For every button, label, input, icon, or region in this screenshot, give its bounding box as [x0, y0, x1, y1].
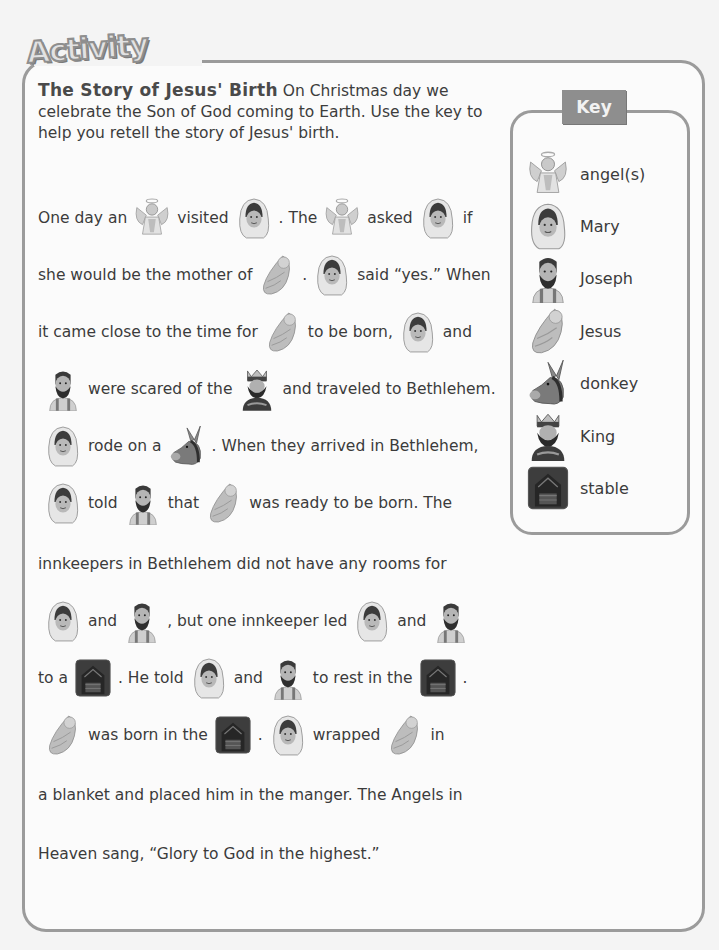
- angel-icon: [133, 196, 171, 240]
- story-text: .: [258, 726, 263, 744]
- key-item-jesus: Jesus: [520, 305, 690, 357]
- jesus-icon: [205, 481, 243, 525]
- key-item-label: angel(s): [580, 165, 645, 184]
- story-line: were scared of theand traveled to Bethle…: [38, 361, 496, 417]
- mary-icon: [44, 599, 82, 643]
- joseph-icon: [44, 367, 82, 411]
- story-text: and: [397, 612, 426, 630]
- key-label: Key: [562, 90, 626, 124]
- story-text: innkeepers in Bethlehem did not have any…: [38, 555, 447, 573]
- story-line: to a. He toldandto rest in the.: [38, 650, 467, 706]
- jesus-icon: [44, 713, 82, 757]
- story-text: . He told: [118, 669, 184, 687]
- key-item-donkey: donkey: [520, 357, 690, 409]
- angel-icon: [526, 149, 570, 199]
- mary-icon: [44, 424, 82, 468]
- key-item-label: Jesus: [580, 322, 621, 341]
- story-text: and: [88, 612, 117, 630]
- stable-icon: [526, 463, 570, 513]
- story-text: One day an: [38, 209, 127, 227]
- story-text: . The: [279, 209, 318, 227]
- story-text: in: [430, 726, 444, 744]
- activity-heading: The Story of Jesus' Birth: [38, 80, 278, 100]
- mary-icon: [399, 310, 437, 354]
- story-text: said “yes.” When: [357, 266, 490, 284]
- king-icon: [526, 411, 570, 461]
- stable-icon: [419, 656, 457, 700]
- joseph-icon: [526, 253, 570, 303]
- story-line: it came close to the time forto be born,…: [38, 304, 472, 360]
- joseph-icon: [123, 599, 161, 643]
- story-line: innkeepers in Bethlehem did not have any…: [38, 536, 447, 592]
- joseph-icon: [124, 481, 162, 525]
- story-text: and traveled to Bethlehem.: [282, 380, 495, 398]
- key-item-label: King: [580, 427, 615, 446]
- story-line: a blanket and placed him in the manger. …: [38, 767, 463, 823]
- story-line: was born in the.wrappedin: [38, 707, 445, 763]
- story-text: to be born,: [308, 323, 393, 341]
- joseph-icon: [432, 599, 470, 643]
- key-item-label: Mary: [580, 217, 620, 236]
- mary-icon: [526, 201, 570, 251]
- jesus-icon: [258, 253, 296, 297]
- jesus-icon: [526, 306, 570, 356]
- key-item-angels: angel(s): [520, 148, 690, 200]
- jesus-icon: [386, 713, 424, 757]
- key-item-label: stable: [580, 479, 629, 498]
- key-item-label: Joseph: [580, 269, 633, 288]
- story-text: to a: [38, 669, 68, 687]
- story-text: it came close to the time for: [38, 323, 258, 341]
- story-text: rode on a: [88, 437, 162, 455]
- story-line: she would be the mother of.said “yes.” W…: [38, 247, 491, 303]
- story-text: .: [302, 266, 307, 284]
- key-item-stable: stable: [520, 462, 690, 514]
- key-item-mary: Mary: [520, 200, 690, 252]
- story-text: that: [168, 494, 199, 512]
- king-icon: [238, 367, 276, 411]
- activity-page: Activity The Story of Jesus' Birth On Ch…: [0, 0, 719, 950]
- angel-icon: [323, 196, 361, 240]
- donkey-icon: [526, 358, 570, 408]
- story-line: and, but one innkeeper ledand: [38, 593, 476, 649]
- story-text: were scared of the: [88, 380, 232, 398]
- intro-paragraph: The Story of Jesus' Birth On Christmas d…: [38, 80, 498, 144]
- story-line: rode on a. When they arrived in Bethlehe…: [38, 418, 479, 474]
- story-text: asked: [367, 209, 412, 227]
- donkey-icon: [168, 424, 206, 468]
- story-text: .: [463, 669, 468, 687]
- story-text: and: [443, 323, 472, 341]
- key-item-king: King: [520, 410, 690, 462]
- story-text: and: [234, 669, 263, 687]
- story-text: was ready to be born. The: [249, 494, 452, 512]
- story-text: , but one innkeeper led: [167, 612, 347, 630]
- story-text: visited: [177, 209, 228, 227]
- story-text: she would be the mother of: [38, 266, 252, 284]
- story-text: Heaven sang, “Glory to God in the highes…: [38, 845, 380, 863]
- story-text: to rest in the: [313, 669, 413, 687]
- mary-icon: [313, 253, 351, 297]
- story-text: wrapped: [313, 726, 381, 744]
- mary-icon: [44, 481, 82, 525]
- story-line: toldthatwas ready to be born. The: [38, 475, 452, 531]
- key-item-label: donkey: [580, 374, 638, 393]
- story-text: a blanket and placed him in the manger. …: [38, 786, 463, 804]
- stable-icon: [74, 656, 112, 700]
- story-line: Heaven sang, “Glory to God in the highes…: [38, 826, 380, 882]
- story-text: told: [88, 494, 118, 512]
- stable-icon: [214, 713, 252, 757]
- mary-icon: [235, 196, 273, 240]
- mary-icon: [353, 599, 391, 643]
- key-item-joseph: Joseph: [520, 252, 690, 304]
- mary-icon: [190, 656, 228, 700]
- story-text: . When they arrived in Bethlehem,: [212, 437, 479, 455]
- story-line: One day anvisited. Theaskedif: [38, 190, 472, 246]
- mary-icon: [419, 196, 457, 240]
- jesus-icon: [264, 310, 302, 354]
- story-text: if: [463, 209, 473, 227]
- story-text: was born in the: [88, 726, 208, 744]
- joseph-icon: [269, 656, 307, 700]
- mary-icon: [269, 713, 307, 757]
